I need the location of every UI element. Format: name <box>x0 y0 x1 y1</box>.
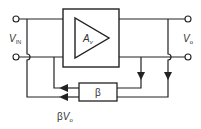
left-series-path <box>27 19 60 97</box>
output-terminal-top <box>185 16 191 22</box>
left-shunt-path <box>54 57 60 88</box>
right-series-path <box>117 19 171 97</box>
feedback-diagram: Av β VIN Vo βVo <box>0 0 201 129</box>
input-terminal-top <box>13 16 19 22</box>
input-terminal-bottom <box>13 54 19 60</box>
feedback-signal-label: βVo <box>57 111 73 123</box>
output-terminal-bottom <box>185 54 191 60</box>
feedback-label: β <box>95 87 101 98</box>
output-voltage-label: Vo <box>183 33 194 45</box>
arrow-down-icon <box>137 72 145 80</box>
arrow-down-icon <box>164 72 172 80</box>
input-voltage-label: VIN <box>9 33 21 45</box>
